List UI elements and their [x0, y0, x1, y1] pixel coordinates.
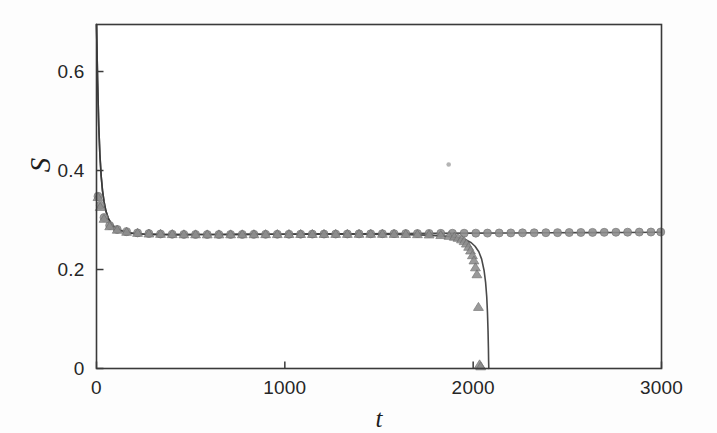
y-tick-label-0: 0	[0, 358, 85, 380]
data-point-circle	[495, 229, 503, 237]
x-tick-label-1000: 1000	[263, 377, 306, 399]
data-point-circle	[483, 229, 491, 237]
plot-svg	[0, 0, 717, 433]
data-point-circle	[554, 229, 562, 237]
data-point-circle	[635, 228, 643, 236]
artifact-scan-speck	[446, 162, 451, 167]
y-tick-label-0-6: 0.6	[0, 61, 85, 83]
y-axis-title: S	[24, 157, 57, 172]
data-point-circle	[472, 229, 480, 237]
figure-container: 0 0.2 0.4 0.6 0 1000 2000 3000 S t	[0, 0, 717, 433]
data-point-circle	[542, 229, 550, 237]
data-point-circle	[600, 228, 608, 236]
plot-area-background	[97, 25, 662, 369]
data-point-circle	[507, 229, 515, 237]
data-point-circle	[612, 228, 620, 236]
data-point-circle	[624, 228, 632, 236]
data-point-circle	[647, 228, 655, 236]
data-point-circle	[589, 228, 597, 236]
data-point-circle	[530, 229, 538, 237]
data-point-circle	[519, 229, 527, 237]
x-axis-title: t	[376, 405, 383, 433]
data-point-circle	[565, 229, 573, 237]
y-tick-label-0-2: 0.2	[0, 259, 85, 281]
x-tick-label-3000: 3000	[640, 377, 683, 399]
data-point-circle	[577, 228, 585, 236]
x-tick-label-0: 0	[91, 377, 102, 399]
x-tick-label-2000: 2000	[452, 377, 495, 399]
